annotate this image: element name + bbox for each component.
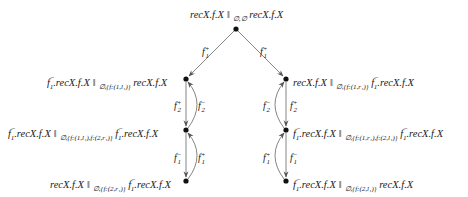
edge-label-l1-l2: f+2 bbox=[174, 98, 181, 115]
subscript: ∅,{f:(1,l₁),f:(2,r₁)} bbox=[60, 134, 113, 142]
transition-diagram: recX.f.X‖∅,∅ recX.f.X f−1.recX.f.X‖∅,{f:… bbox=[0, 0, 468, 197]
term-right: recX.f.X bbox=[379, 179, 413, 190]
term-left: recX.f.X bbox=[190, 9, 224, 20]
sub-idx: 2 bbox=[267, 106, 271, 114]
edge-label-r2-r3: f−1 bbox=[290, 150, 297, 167]
parallel-op: ‖ bbox=[227, 9, 230, 20]
sub-idx: 1 bbox=[264, 52, 268, 60]
term-left: recX.f.X bbox=[293, 77, 327, 88]
edge-label-root-r1: f+1 bbox=[260, 44, 267, 61]
node-l1 bbox=[183, 76, 188, 81]
diagram-graph bbox=[0, 0, 468, 197]
subscript: ∅,{f:(1,l₁)} bbox=[99, 83, 131, 91]
parallel-op: ‖ bbox=[87, 179, 90, 190]
edge-label-r1-r2: f+2 bbox=[290, 98, 297, 115]
label-r2: f−1.recX.f.X‖∅,{f:(1,r₁),f:(2,l₁)} f−1.r… bbox=[293, 123, 443, 144]
edge-label-r3-r2: f+1 bbox=[263, 150, 270, 167]
sub-idx: 1 bbox=[294, 158, 298, 166]
node-l3 bbox=[183, 178, 188, 183]
sub-idx: 1 bbox=[178, 158, 182, 166]
label-l1: f−1.recX.f.X‖∅,{f:(1,l₁)} recX.f.X bbox=[47, 72, 167, 93]
node-r3 bbox=[283, 178, 288, 183]
edge-r2-r1 bbox=[275, 82, 284, 128]
label-root: recX.f.X‖∅,∅ recX.f.X bbox=[190, 9, 283, 25]
edge-r3-r2 bbox=[275, 133, 284, 179]
edge-root-l1 bbox=[189, 31, 234, 76]
parallel-op: ‖ bbox=[339, 128, 342, 139]
label-r1: recX.f.X‖∅,{f:(1,r₁)} f−1.recX.f.X bbox=[293, 72, 414, 93]
term-left: .recX.f.X bbox=[53, 77, 90, 88]
node-r1 bbox=[283, 76, 288, 81]
term-right: recX.f.X bbox=[249, 9, 283, 20]
term-left: recX.f.X bbox=[50, 179, 84, 190]
sub-idx: 1 bbox=[202, 158, 206, 166]
label-l2: f−1.recX.f.X‖∅,{f:(1,l₁),f:(2,r₁)} f−1.r… bbox=[8, 123, 158, 144]
node-r2 bbox=[283, 127, 288, 132]
label-l3: recX.f.X‖∅,{f:(2,r₁)} f−1.recX.f.X bbox=[50, 174, 171, 195]
edge-label-l3-l2: f+1 bbox=[198, 150, 205, 167]
subscript: ∅,{f:(1,r₁)} bbox=[336, 83, 369, 91]
subscript: ∅,{f:(2,l₁)} bbox=[345, 185, 377, 193]
label-r3: f−1.recX.f.X‖∅,{f:(2,l₁)} recX.f.X bbox=[293, 174, 413, 195]
sub-idx: 2 bbox=[294, 106, 298, 114]
term-left: .recX.f.X bbox=[299, 179, 336, 190]
sub-idx: 1 bbox=[206, 52, 210, 60]
sub-idx: 1 bbox=[267, 158, 271, 166]
sub-idx: 2 bbox=[202, 106, 206, 114]
term-right: .recX.f.X bbox=[134, 179, 171, 190]
node-l2 bbox=[183, 127, 188, 132]
parallel-op: ‖ bbox=[93, 77, 96, 88]
term-right: .recX.f.X bbox=[406, 128, 443, 139]
term-left: .recX.f.X bbox=[299, 128, 336, 139]
node-root bbox=[233, 26, 238, 31]
sub-idx: 2 bbox=[178, 106, 182, 114]
edge-label-l2-l1: f−2 bbox=[198, 98, 205, 115]
subscript: ∅,{f:(1,r₁),f:(2,l₁)} bbox=[345, 134, 398, 142]
term-right: .recX.f.X bbox=[121, 128, 158, 139]
edge-label-root-l1: f+1 bbox=[202, 44, 209, 61]
edge-label-r2-r1: f−2 bbox=[263, 98, 270, 115]
parallel-op: ‖ bbox=[54, 128, 57, 139]
term-right: recX.f.X bbox=[133, 77, 167, 88]
parallel-op: ‖ bbox=[339, 179, 342, 190]
term-left: .recX.f.X bbox=[14, 128, 51, 139]
edge-l3-l2 bbox=[188, 133, 197, 179]
edge-l2-l1 bbox=[188, 82, 197, 128]
subscript: ∅,∅ bbox=[233, 15, 247, 23]
parallel-op: ‖ bbox=[330, 77, 333, 88]
edge-label-l2-l3: f−1 bbox=[174, 150, 181, 167]
term-right: .recX.f.X bbox=[377, 77, 414, 88]
subscript: ∅,{f:(2,r₁)} bbox=[93, 185, 126, 193]
